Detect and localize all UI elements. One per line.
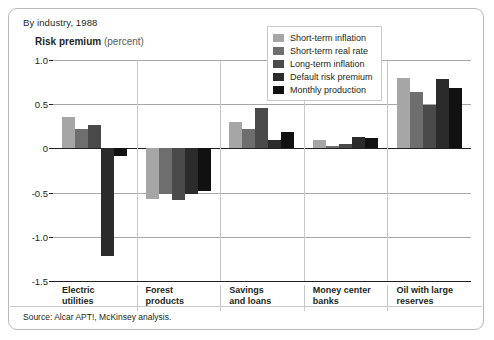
bar	[281, 132, 294, 149]
category-label-line: Electric	[62, 285, 137, 296]
legend-item[interactable]: Monthly production	[273, 83, 373, 96]
chart-plot-area: 1.00.50-0.5-1.0-1.5	[53, 60, 471, 281]
bar-slot	[229, 60, 242, 281]
legend-item-label: Default risk premium	[290, 72, 373, 82]
legend-item-label: Monthly production	[290, 85, 366, 95]
category-divider	[387, 285, 388, 311]
bar	[159, 148, 172, 194]
bar	[339, 144, 352, 148]
bar	[114, 148, 127, 156]
category-label-line: Savings	[229, 285, 304, 296]
legend-swatch-icon	[273, 60, 284, 68]
legend-swatch-icon	[273, 86, 284, 94]
bar	[365, 138, 378, 149]
bar-group	[137, 60, 221, 281]
bar-slot-row	[53, 60, 137, 281]
bar-slot	[62, 60, 75, 281]
y-axis-tick-label: -1.0	[32, 231, 48, 242]
bar-slot	[88, 60, 101, 281]
legend-item[interactable]: Long-term inflation	[273, 57, 373, 70]
category-label: Money centerbanks	[304, 285, 388, 315]
bar-slot	[397, 60, 410, 281]
bar	[436, 79, 449, 148]
bar-slot	[114, 60, 127, 281]
bar	[62, 117, 75, 148]
category-label-line: Money center	[313, 285, 388, 296]
y-axis-tick-label: -1.5	[32, 276, 48, 287]
category-divider	[137, 285, 138, 311]
bar-slot	[146, 60, 159, 281]
bar-slot	[436, 60, 449, 281]
bar	[268, 140, 281, 149]
bar-slot	[172, 60, 185, 281]
category-divider	[220, 285, 221, 311]
exhibit-subtitle: By industry, 1988	[23, 17, 97, 28]
bar-slot	[423, 60, 436, 281]
bar	[352, 137, 365, 148]
footer-divider	[10, 306, 482, 307]
axis-title-strong: Risk premium	[35, 36, 101, 47]
y-axis-tick-label: -0.5	[32, 187, 48, 198]
bar-slot	[449, 60, 462, 281]
bar	[423, 105, 436, 148]
bar-slot	[185, 60, 198, 281]
y-axis-tick-label: 0	[43, 143, 48, 154]
legend-swatch-icon	[273, 73, 284, 81]
bar	[449, 88, 462, 148]
y-axis-tick-label: 0.5	[35, 99, 48, 110]
bar-slot	[198, 60, 211, 281]
bar	[255, 108, 268, 149]
legend-swatch-icon	[273, 47, 284, 55]
chart-axis-title: Risk premium (percent)	[35, 36, 144, 47]
legend-swatch-icon	[273, 34, 284, 42]
bar-slot-row	[137, 60, 221, 281]
category-label-line: Forest	[146, 285, 221, 296]
bar	[101, 148, 114, 256]
bar-group	[387, 60, 471, 281]
bar-slot-row	[387, 60, 471, 281]
bar	[229, 122, 242, 149]
legend-item-label: Short-term inflation	[290, 33, 366, 43]
category-label: Savingsand loans	[220, 285, 304, 315]
category-divider	[304, 285, 305, 311]
chart-legend: Short-term inflationShort-term real rate…	[267, 26, 382, 101]
category-label: Forestproducts	[137, 285, 221, 315]
bar	[410, 92, 423, 149]
x-axis-line	[53, 281, 471, 282]
source-note: Source: Alcar APT!, McKinsey analysis.	[23, 312, 171, 322]
y-axis-tick-label: 1.0	[35, 55, 48, 66]
bar-groups	[53, 60, 471, 281]
bar	[146, 148, 159, 198]
bar-group	[53, 60, 137, 281]
bar	[198, 148, 211, 190]
bar	[88, 125, 101, 149]
bar	[397, 78, 410, 149]
legend-item[interactable]: Default risk premium	[273, 70, 373, 83]
bar-slot	[159, 60, 172, 281]
legend-item[interactable]: Short-term real rate	[273, 44, 373, 57]
bar	[172, 148, 185, 199]
exhibit-panel: By industry, 1988 Risk premium (percent)…	[8, 8, 484, 330]
legend-item-label: Short-term real rate	[290, 46, 368, 56]
bar	[326, 146, 339, 149]
category-label: Oil with largereserves	[387, 285, 471, 315]
bar-slot	[410, 60, 423, 281]
bar-slot	[242, 60, 255, 281]
bar	[313, 140, 326, 149]
bar	[75, 129, 88, 148]
category-labels: ElectricutilitiesForestproductsSavingsan…	[53, 285, 471, 315]
axis-title-unit: (percent)	[104, 36, 144, 47]
legend-item[interactable]: Short-term inflation	[273, 31, 373, 44]
bar-slot	[75, 60, 88, 281]
bar	[185, 148, 198, 194]
category-label: Electricutilities	[53, 285, 137, 315]
category-label-line: Oil with large	[396, 285, 471, 296]
bar	[242, 129, 255, 148]
legend-item-label: Long-term inflation	[290, 59, 365, 69]
bar-slot	[101, 60, 114, 281]
